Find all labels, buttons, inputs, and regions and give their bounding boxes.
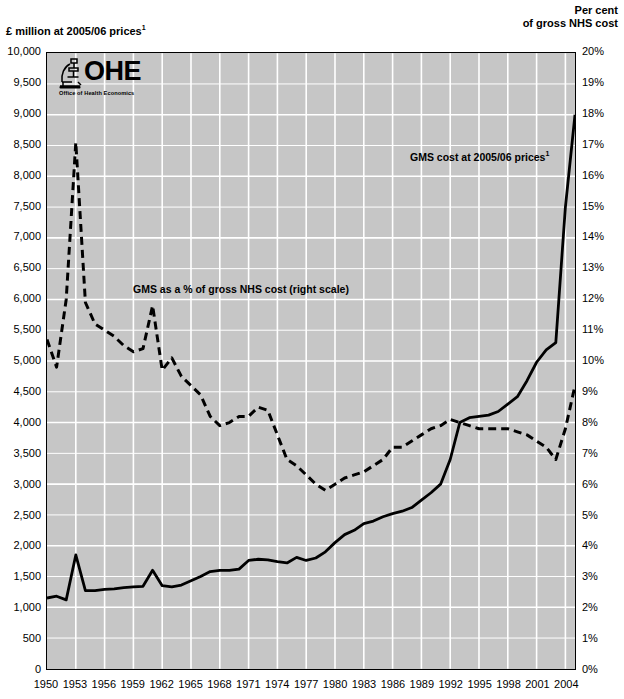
- y-axis-left-tick: 5,500: [1, 323, 41, 335]
- right-axis-title-line2: of gross NHS cost: [523, 17, 618, 30]
- left-axis-title: £ million at 2005/06 prices1: [6, 24, 146, 37]
- y-axis-right-tick: 10%: [582, 354, 624, 366]
- y-axis-left-tick: 6,000: [1, 292, 41, 304]
- ohe-tagline: Office of Health Economics: [59, 90, 134, 96]
- series-line: [47, 142, 575, 490]
- chart-root: £ million at 2005/06 prices1 Per cent of…: [0, 0, 624, 699]
- y-axis-right-tick: 16%: [582, 169, 624, 181]
- y-axis-left-tick: 4,000: [1, 416, 41, 428]
- y-axis-left-tick: 500: [1, 632, 41, 644]
- y-axis-right-tick: 11%: [582, 323, 624, 335]
- y-axis-right-tick: 9%: [582, 385, 624, 397]
- right-axis-title: Per cent of gross NHS cost: [523, 4, 618, 30]
- plot-svg: [47, 53, 575, 669]
- y-axis-left-tick: 9,000: [1, 107, 41, 119]
- left-axis-title-superscript: 1: [142, 24, 146, 31]
- y-axis-right-tick: 15%: [582, 200, 624, 212]
- y-axis-right-tick: 1%: [582, 632, 624, 644]
- y-axis-right-tick: 5%: [582, 509, 624, 521]
- y-axis-left-tick: 9,500: [1, 76, 41, 88]
- y-axis-right-tick: 0%: [582, 663, 624, 675]
- y-axis-right-tick: 18%: [582, 107, 624, 119]
- y-axis-left-tick: 3,000: [1, 478, 41, 490]
- y-axis-right-tick: 3%: [582, 570, 624, 582]
- y-axis-left-tick: 1,500: [1, 570, 41, 582]
- x-axis: 1950195319561959196219651968197119741977…: [0, 678, 624, 698]
- y-axis-right-tick: 7%: [582, 447, 624, 459]
- y-axis-left-tick: 2,500: [1, 509, 41, 521]
- right-axis-title-line1: Per cent: [523, 4, 618, 17]
- y-axis-left-tick: 1,000: [1, 601, 41, 613]
- y-axis-left-tick: 0: [1, 663, 41, 675]
- plot-area: [46, 52, 576, 670]
- y-axis-left-tick: 3,500: [1, 447, 41, 459]
- series-annotation: GMS as a % of gross NHS cost (right scal…: [133, 283, 349, 295]
- y-axis-left-tick: 7,000: [1, 230, 41, 242]
- series-line: [47, 115, 575, 600]
- x-axis-tick: 2004: [546, 678, 586, 690]
- y-axis-right-tick: 12%: [582, 292, 624, 304]
- y-axis-left-tick: 8,500: [1, 138, 41, 150]
- y-axis-right: 20%19%18%17%16%15%14%13%12%11%10%9%8%7%6…: [582, 52, 624, 670]
- y-axis-right-tick: 13%: [582, 261, 624, 273]
- y-axis-left-tick: 5,000: [1, 354, 41, 366]
- y-axis-left-tick: 7,500: [1, 200, 41, 212]
- y-axis-right-tick: 19%: [582, 76, 624, 88]
- ohe-wordmark: OHE: [84, 58, 141, 85]
- y-axis-left-tick: 8,000: [1, 169, 41, 181]
- y-axis-right-tick: 20%: [582, 45, 624, 57]
- y-axis-right-tick: 8%: [582, 416, 624, 428]
- y-axis-right-tick: 6%: [582, 478, 624, 490]
- y-axis-left-tick: 4,500: [1, 385, 41, 397]
- y-axis-left-tick: 6,500: [1, 261, 41, 273]
- left-axis-title-text: £ million at 2005/06 prices: [6, 25, 142, 37]
- y-axis-right-tick: 2%: [582, 601, 624, 613]
- series-annotation: GMS cost at 2005/06 prices1: [410, 150, 549, 163]
- y-axis-left-tick: 2,000: [1, 539, 41, 551]
- y-axis-left-tick: 10,000: [1, 45, 41, 57]
- y-axis-right-tick: 17%: [582, 138, 624, 150]
- y-axis-left: 10,0009,5009,0008,5008,0007,5007,0006,50…: [0, 52, 41, 670]
- ohe-logo: OHE Office of Health Economics: [58, 56, 150, 102]
- y-axis-right-tick: 4%: [582, 539, 624, 551]
- y-axis-right-tick: 14%: [582, 230, 624, 242]
- annotation-superscript: 1: [545, 150, 549, 157]
